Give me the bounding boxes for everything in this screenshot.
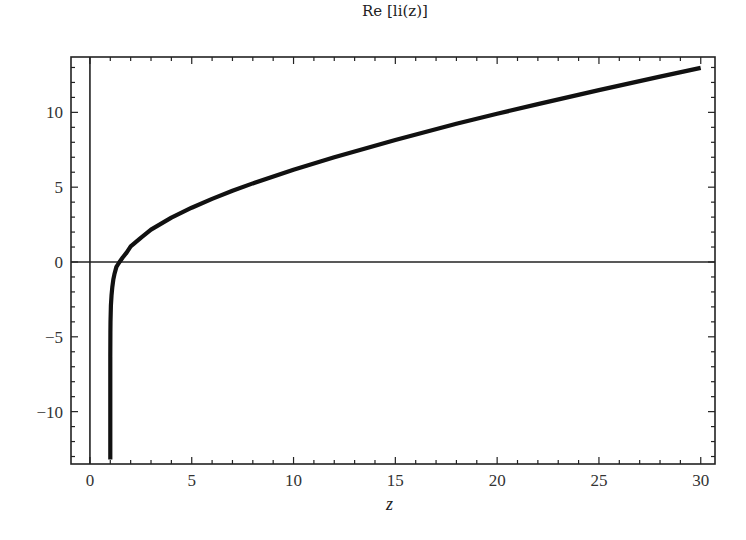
x-tick-label: 30 bbox=[692, 471, 709, 490]
series-line bbox=[110, 68, 700, 460]
x-axis-label: z bbox=[386, 494, 393, 515]
y-tick-label: 5 bbox=[55, 178, 64, 197]
x-tick-label: 10 bbox=[285, 471, 302, 490]
x-tick-label: 25 bbox=[590, 471, 607, 490]
axis-ticks bbox=[71, 57, 715, 464]
y-tick-label: 0 bbox=[55, 253, 64, 272]
zero-axes bbox=[71, 57, 715, 464]
x-tick-label: 20 bbox=[489, 471, 506, 490]
y-tick-label: −10 bbox=[36, 403, 63, 422]
x-tick-label: 15 bbox=[387, 471, 404, 490]
plot-area: 051015202530−10−50510 bbox=[0, 0, 746, 540]
x-tick-label: 5 bbox=[187, 471, 196, 490]
tick-labels: 051015202530−10−50510 bbox=[36, 103, 709, 490]
plot-frame bbox=[71, 57, 715, 464]
data-series bbox=[110, 68, 700, 460]
y-tick-label: −5 bbox=[45, 328, 63, 347]
x-tick-label: 0 bbox=[86, 471, 95, 490]
y-tick-label: 10 bbox=[46, 103, 63, 122]
